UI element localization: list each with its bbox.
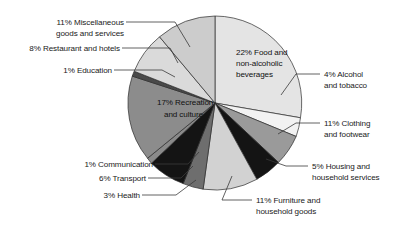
label-miscellaneous-line2: goods and services <box>56 29 124 38</box>
label-clothing-line2: and footwear <box>324 130 370 139</box>
label-clothing-line1: 11% Clothing <box>324 119 370 128</box>
label-communication: 1% Communication <box>84 160 153 169</box>
label-recreation-line2: and culture <box>164 110 204 119</box>
label-recreation-line1: 17% Recreation <box>157 98 213 107</box>
label-housing-line2: household services <box>312 173 380 182</box>
pie-chart-figure: 11% Miscellaneous goods and services 8% … <box>0 0 400 233</box>
label-education: 1% Education <box>63 66 112 75</box>
label-housing-line1: 5% Housing and <box>312 162 370 171</box>
label-furniture-line1: 11% Furniture and <box>256 196 320 205</box>
label-alcohol-line2: and tobacco <box>324 81 368 90</box>
label-furniture-line2: household goods <box>256 207 316 216</box>
chart-canvas: 11% Miscellaneous goods and services 8% … <box>0 0 400 233</box>
pie-slices <box>128 16 302 190</box>
label-food-line3: beverages <box>236 70 273 79</box>
label-food-line2: non-alcoholic <box>236 59 282 68</box>
label-health: 3% Health <box>104 191 140 200</box>
label-alcohol-line1: 4% Alcohol <box>324 70 363 79</box>
label-restaurant: 8% Restaurant and hotels <box>29 44 120 53</box>
label-miscellaneous-line1: 11% Miscellaneous <box>57 18 124 27</box>
label-food-line1: 22% Food and <box>236 48 287 57</box>
label-transport: 6% Transport <box>99 174 147 183</box>
